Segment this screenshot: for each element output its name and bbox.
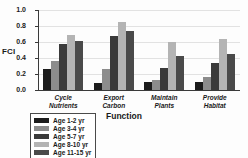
y-tick-mark [35,74,39,75]
y-tick-label: 0.0 [0,86,26,93]
bar [168,42,176,90]
legend-label: Age 5-7 yr [53,133,84,140]
bar-group [195,10,235,90]
bar [160,68,168,90]
legend-item[interactable]: Age 11-15 yr [34,148,91,156]
legend-item[interactable]: Age 5-7 yr [34,132,91,140]
bar [94,83,102,90]
y-tick-mark [35,10,39,11]
legend-swatch [34,118,49,123]
y-tick-label: 0.8 [0,22,26,29]
y-tick-label: 1.0 [0,6,26,13]
bar [110,36,118,90]
legend-item[interactable]: Age 3-4 yr [34,124,91,132]
bar [67,35,75,90]
legend-swatch [34,126,49,131]
y-tick-mark [35,90,39,91]
legend-label: Age 3-4 yr [53,125,84,132]
bar [176,56,184,90]
legend-label: Age 8-10 yr [53,141,88,148]
chart-legend: Age 1-2 yrAge 3-4 yrAge 5-7 yrAge 8-10 y… [30,113,96,158]
bar [126,31,134,90]
legend-swatch [34,150,49,155]
y-tick-label: 0.6 [0,38,26,45]
bar [195,82,203,90]
y-tick-label: 0.2 [0,70,26,77]
legend-swatch [34,134,49,139]
bar-chart-figure: FCI 1.00.80.60.40.20.0 Function Age 1-2 … [0,0,248,158]
bar-group [144,10,184,90]
bar [102,69,110,90]
bar [43,69,51,90]
bar-group [43,10,83,90]
bar [51,61,59,90]
legend-label: Age 1-2 yr [53,117,84,124]
x-axis-line [38,90,240,91]
bar [219,39,227,90]
legend-item[interactable]: Age 8-10 yr [34,140,91,148]
legend-label: Age 11-15 yr [53,149,91,156]
y-tick-mark [35,42,39,43]
bar [211,63,219,90]
y-axis-line [38,10,39,91]
legend-item[interactable]: Age 1-2 yr [34,116,91,124]
bar [144,82,152,90]
x-tick-label-line: Habitat [183,102,247,110]
y-tick-mark [35,58,39,59]
bar [203,77,211,90]
x-tick-label-line: Provide [183,94,247,102]
y-tick-label: 0.4 [0,54,26,61]
bar-group [94,10,134,90]
bar [227,54,235,90]
legend-swatch [34,142,49,147]
bar [59,44,67,90]
plot-area: 1.00.80.60.40.20.0 [38,10,240,91]
x-tick-label: ProvideHabitat [183,94,247,110]
bar [75,41,83,90]
y-tick-mark [35,26,39,27]
bar [152,80,160,90]
bar [118,22,126,90]
